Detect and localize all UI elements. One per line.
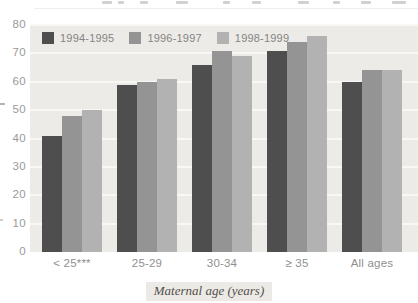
clipped-text-strip [30,0,418,10]
bar-1994-1995-30-34 [192,65,212,252]
chart-figure: 01020304050607080 1994-1995 1996-1997 19… [0,0,418,303]
y-tick-label-80: 80 [0,18,26,30]
x-axis-title: Maternal age (years) [146,282,272,301]
x-category-label-25: < 25*** [42,257,102,269]
bar-group-all-ages [342,70,402,252]
bar-1996-1997-all-ages [362,70,382,252]
bar-1998-1999-25-29 [157,79,177,252]
legend-label: 1998-1999 [229,32,289,44]
x-category-label-30-34: 30-34 [192,257,252,269]
y-tick-label-70: 70 [0,46,26,58]
bar-1996-1997-25 [62,116,82,252]
y-tick-label-30: 30 [0,160,26,172]
x-category-label-25-29: 25-29 [117,257,177,269]
bar-1998-1999-30-34 [232,56,252,252]
bar-1998-1999-35 [307,36,327,252]
bar-group-25-29 [117,79,177,252]
y-tick-label-0: 0 [0,245,26,257]
bar-1994-1995-25-29 [117,85,137,252]
x-category-label-all-ages: All ages [342,257,402,269]
clipped-text-fragment [176,1,188,4]
legend-item-1996-1997: 1996-1997 [129,32,201,44]
y-tick-label-40: 40 [0,132,26,144]
y-tick-label-10: 10 [0,217,26,229]
legend-item-1998-1999: 1998-1999 [217,32,289,44]
y-tick-label-20: 20 [0,188,26,200]
clipped-text-fragment [223,1,230,4]
bar-1994-1995-35 [267,51,287,252]
legend: 1994-1995 1996-1997 1998-1999 [42,32,289,44]
bar-1994-1995-all-ages [342,82,362,252]
divider-hairline [34,8,418,9]
bar-1994-1995-25 [42,136,62,252]
clipped-text-fragment [118,1,124,4]
clipped-text-fragment [361,1,371,4]
legend-swatch-1996-1997 [129,32,141,44]
bar-1996-1997-25-29 [137,82,157,252]
bar-1998-1999-all-ages [382,70,402,252]
plot-area: 1994-1995 1996-1997 1998-1999 [30,25,418,252]
legend-swatch-1998-1999 [217,32,229,44]
legend-swatch-1994-1995 [42,32,54,44]
bar-groups [30,25,418,252]
bar-1996-1997-35 [287,42,307,252]
y-tick-label-60: 60 [0,75,26,87]
caption-row: Maternal age (years) [0,281,418,301]
clipped-text-fragment [252,1,261,4]
legend-label: 1996-1997 [141,32,201,44]
clipped-text-fragment [392,1,406,4]
x-axis-labels: < 25***25-2930-34≥ 35All ages [30,257,418,269]
bar-group-25 [42,110,102,252]
legend-item-1994-1995: 1994-1995 [42,32,114,44]
bar-group-30-34 [192,51,252,252]
legend-label: 1994-1995 [54,32,114,44]
clipped-text-fragment [102,1,112,4]
clipped-text-fragment [140,1,148,4]
x-category-label-35: ≥ 35 [267,257,327,269]
y-axis: 01020304050607080 [0,0,26,303]
bar-1998-1999-25 [82,110,102,252]
bar-group-35 [267,36,327,252]
y-tick-label-50: 50 [0,103,26,115]
bar-1996-1997-30-34 [212,51,232,252]
clipped-text-fragment [333,1,340,4]
clipped-text-fragment [298,1,309,4]
